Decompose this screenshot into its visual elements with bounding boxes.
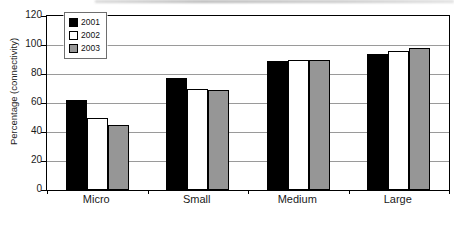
x-tick-2 [248,190,249,194]
x-tick-4 [449,190,450,194]
bar-micro-2001 [66,100,87,190]
legend-label: 2001 [78,18,100,27]
legend-label: 2002 [78,31,100,40]
bar-medium-2003 [309,60,330,191]
legend-swatch-icon [69,18,78,27]
bar-large-2002 [388,51,409,190]
legend-swatch-icon [69,31,78,40]
legend-swatch-icon [69,44,78,53]
legend-item-2003: 2003 [69,42,100,55]
bar-small-2001 [166,78,187,190]
bar-small-2003 [208,90,229,190]
y-tick-label-60: 60 [12,96,42,107]
bar-micro-2003 [108,125,129,190]
bar-chart: Percentage (connectivity) 02040608010012… [0,0,454,225]
x-category-label-micro: Micro [56,193,136,205]
legend-label: 2003 [78,44,100,53]
legend: 200120022003 [64,12,107,59]
bar-medium-2001 [267,61,288,190]
scan-artifact-line [95,0,454,3]
x-tick-1 [148,190,149,194]
y-tick-label-80: 80 [12,67,42,78]
bar-micro-2002 [87,118,108,191]
x-category-label-small: Small [157,193,237,205]
x-category-label-medium: Medium [257,193,337,205]
x-tick-0 [47,190,48,194]
x-tick-3 [349,190,350,194]
bar-medium-2002 [288,60,309,191]
y-tick-label-0: 0 [12,183,42,194]
bar-large-2003 [409,48,430,190]
y-tick-label-120: 120 [12,9,42,20]
x-category-label-large: Large [358,193,438,205]
gridline-100 [47,45,449,46]
legend-item-2002: 2002 [69,29,100,42]
bar-large-2001 [367,54,388,190]
bar-small-2002 [187,89,208,191]
y-tick-label-20: 20 [12,154,42,165]
y-tick-label-40: 40 [12,125,42,136]
legend-item-2001: 2001 [69,16,100,29]
y-tick-label-100: 100 [12,38,42,49]
